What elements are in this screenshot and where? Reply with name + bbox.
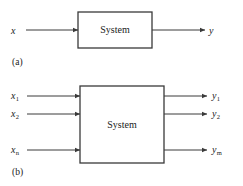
subscript: 2 [217,113,220,120]
panel-b-input-label-x1: x1 [11,91,19,101]
panel-b-input-label-xn: xn [11,145,19,155]
panel-a-caption: (a) [12,58,23,68]
subscript: 2 [16,113,19,120]
panel-a-output-label-y: y [209,26,213,36]
panel-a-input-label-x: x [11,26,15,36]
subscript: 1 [16,95,19,102]
panel-b-block-label: System [80,120,164,130]
panel-a-block-label: System [78,25,152,35]
figure-canvas: System x y (a) System x1 x2 xn y1 y2 ym … [0,0,243,186]
panel-b-input-label-x2: x2 [11,109,19,119]
panel-b-output-label-y1: y1 [212,91,220,101]
panel-b-output-label-y2: y2 [212,109,220,119]
panel-b-output-label-ym: ym [212,145,222,155]
subscript: n [16,149,19,156]
subscript: 1 [217,95,220,102]
subscript: m [217,149,222,156]
panel-b-caption: (b) [12,168,23,178]
